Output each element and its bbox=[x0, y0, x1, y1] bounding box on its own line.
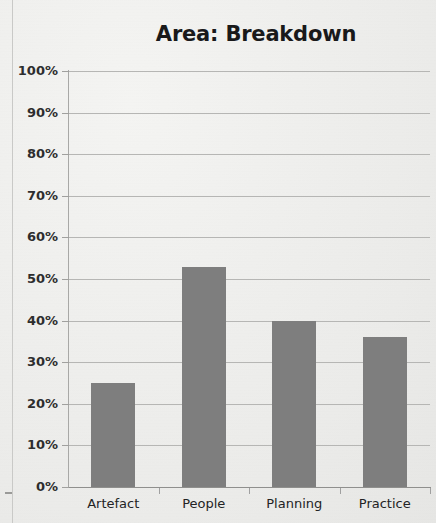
gridline bbox=[68, 196, 430, 197]
y-tick-mark bbox=[62, 404, 69, 405]
y-tick-mark bbox=[62, 113, 69, 114]
gridline bbox=[68, 154, 430, 155]
y-tick-label: 0% bbox=[0, 479, 58, 494]
bar bbox=[363, 337, 407, 487]
y-tick-label: 90% bbox=[0, 105, 58, 120]
y-tick-mark bbox=[62, 196, 69, 197]
y-tick-label: 60% bbox=[0, 229, 58, 244]
gridline bbox=[68, 113, 430, 114]
y-tick-mark bbox=[62, 279, 69, 280]
y-tick-label: 70% bbox=[0, 188, 58, 203]
x-tick-mark bbox=[340, 488, 341, 494]
y-tick-mark bbox=[62, 71, 69, 72]
y-tick-mark bbox=[62, 321, 69, 322]
x-axis-category-label: Artefact bbox=[68, 496, 159, 511]
bar bbox=[182, 267, 226, 487]
chart-page: Area: Breakdown 100%90%80%70%60%50%40%30… bbox=[0, 0, 436, 523]
x-axis-category-label: Planning bbox=[249, 496, 340, 511]
y-tick-label: 40% bbox=[0, 313, 58, 328]
bar bbox=[272, 321, 316, 487]
x-axis-category-label: People bbox=[159, 496, 250, 511]
gridline bbox=[68, 279, 430, 280]
y-tick-label: 80% bbox=[0, 146, 58, 161]
y-tick-label: 50% bbox=[0, 271, 58, 286]
y-tick-label: 10% bbox=[0, 437, 58, 452]
x-tick-mark bbox=[249, 488, 250, 494]
y-tick-label: 100% bbox=[0, 63, 58, 78]
bar-chart: 100%90%80%70%60%50%40%30%20%10%0% Artefa… bbox=[0, 0, 436, 523]
y-tick-mark bbox=[62, 237, 69, 238]
y-tick-label: 20% bbox=[0, 396, 58, 411]
y-tick-label: 30% bbox=[0, 354, 58, 369]
x-tick-mark bbox=[430, 488, 431, 494]
gridline bbox=[68, 321, 430, 322]
x-tick-mark bbox=[159, 488, 160, 494]
gridline bbox=[68, 71, 430, 72]
y-tick-mark bbox=[62, 362, 69, 363]
y-tick-mark bbox=[62, 154, 69, 155]
y-tick-mark bbox=[62, 487, 69, 488]
y-tick-mark bbox=[62, 445, 69, 446]
bar bbox=[91, 383, 135, 487]
x-axis-category-label: Practice bbox=[340, 496, 431, 511]
gridline bbox=[68, 237, 430, 238]
